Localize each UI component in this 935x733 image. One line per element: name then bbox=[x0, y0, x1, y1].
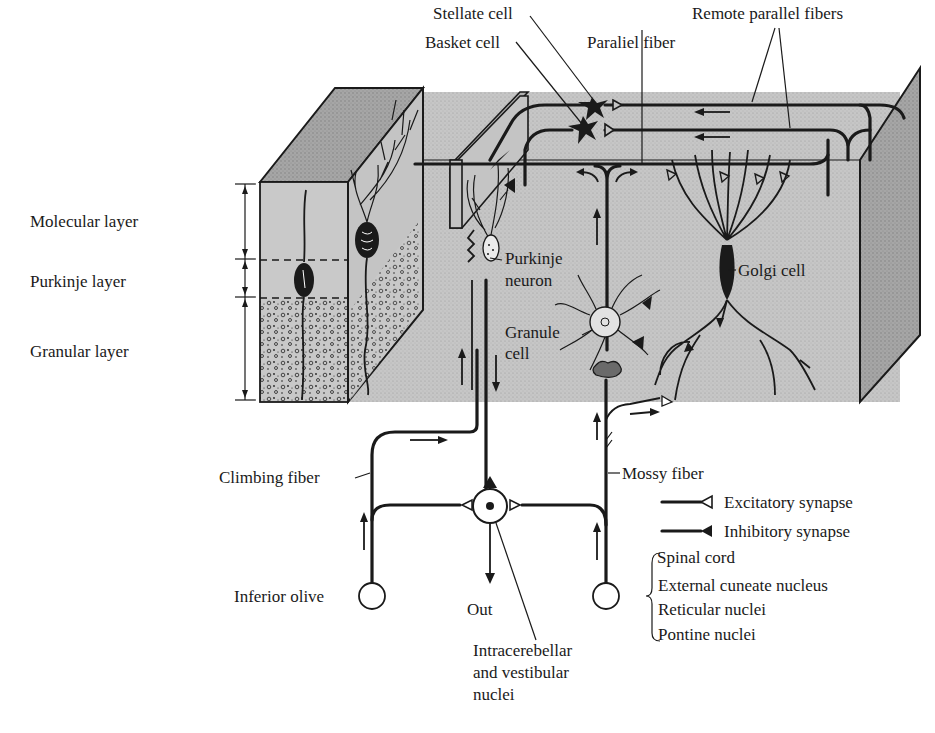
source-reticular-nuclei: Reticular nuclei bbox=[658, 600, 766, 619]
mossy-source-node bbox=[593, 583, 619, 609]
label-basket-cell: Basket cell bbox=[425, 33, 500, 52]
legend-symbols bbox=[646, 496, 712, 641]
label-intracerebellar-1: Intracerebellar bbox=[473, 641, 572, 660]
source-pontine-nuclei: Pontine nuclei bbox=[658, 625, 756, 644]
label-molecular-layer: Molecular layer bbox=[30, 212, 138, 231]
cerebellar-circuit-diagram: Molecular layer Purkinje layer Granular … bbox=[0, 0, 935, 733]
label-stellate-cell: Stellate cell bbox=[433, 4, 513, 23]
label-intracerebellar-3: nuclei bbox=[473, 685, 515, 704]
label-golgi-cell: Golgi cell bbox=[738, 261, 806, 280]
label-mossy-fiber: Mossy fiber bbox=[622, 464, 704, 483]
label-intracerebellar-2: and vestibular bbox=[473, 663, 569, 682]
label-granule-cell-2: cell bbox=[505, 344, 530, 363]
label-purkinje-neuron-1: Purkinje bbox=[505, 249, 563, 268]
legend-excitatory-label: Excitatory synapse bbox=[724, 493, 853, 512]
label-remote-parallel-fibers: Remote parallel fibers bbox=[692, 4, 843, 23]
label-granule-cell-1: Granule bbox=[505, 323, 560, 342]
cortex-block bbox=[345, 68, 920, 402]
source-external-cuneate: External cuneate nucleus bbox=[658, 576, 828, 595]
label-parallel-fiber: Paraliel fiber bbox=[587, 33, 676, 52]
label-out: Out bbox=[467, 600, 493, 619]
legend-inhibitory-label: Inhibitory synapse bbox=[724, 522, 850, 541]
label-purkinje-layer: Purkinje layer bbox=[30, 272, 126, 291]
layer-scale bbox=[235, 184, 256, 400]
label-granular-layer: Granular layer bbox=[30, 342, 129, 361]
inferior-olive-node bbox=[359, 583, 385, 609]
label-climbing-fiber: Climbing fiber bbox=[219, 468, 320, 487]
label-inferior-olive: Inferior olive bbox=[234, 587, 324, 606]
label-purkinje-neuron-2: neuron bbox=[505, 271, 553, 290]
source-spinal-cord: Spinal cord bbox=[657, 548, 735, 567]
